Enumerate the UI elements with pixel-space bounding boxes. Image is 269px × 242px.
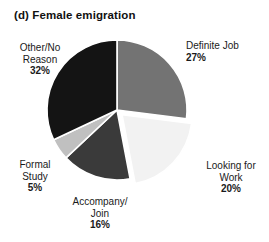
pie-label-accompany-join-line2: Join [50,208,150,220]
pie-label-accompany-join: Accompany/ Join 16% [50,196,150,231]
pie-slice-looking-for-work[interactable] [122,115,191,184]
pie-label-other-no-reason: Other/No Reason 32% [4,42,76,77]
pie-slice-definite-job[interactable] [117,40,187,119]
pie-label-definite-job-line1: Definite Job [186,40,266,52]
pie-label-looking-for-work-line2: Work [196,172,266,184]
pie-label-looking-for-work-line1: Looking for [196,160,266,172]
pie-chart-figure: (d) Female emigration Definite Job 27% L… [0,0,269,242]
pie-label-accompany-join-percent: 16% [50,219,150,231]
pie-label-accompany-join-line1: Accompany/ [50,196,150,208]
pie-label-other-no-reason-line2: Reason [4,54,76,66]
pie-label-other-no-reason-line1: Other/No [4,42,76,54]
pie-label-formal-study-line2: Study [4,171,66,183]
pie-label-formal-study-line1: Formal [4,159,66,171]
pie-label-formal-study-percent: 5% [4,182,66,194]
pie-label-definite-job: Definite Job 27% [186,40,266,63]
pie-label-looking-for-work-percent: 20% [196,183,266,195]
pie-label-looking-for-work: Looking for Work 20% [196,160,266,195]
pie-label-definite-job-percent: 27% [186,52,266,64]
pie-label-formal-study: Formal Study 5% [4,159,66,194]
pie-label-other-no-reason-percent: 32% [4,65,76,77]
